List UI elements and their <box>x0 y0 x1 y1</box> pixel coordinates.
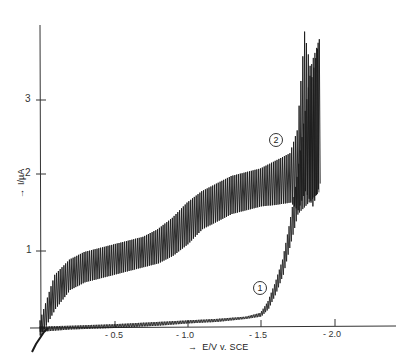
x-tick-label-1.5: - 1.5 <box>249 330 267 340</box>
y-tick-label-1: 1 <box>26 244 32 255</box>
curve-label-2: 2 <box>269 133 283 147</box>
x-tick-label-0.5: - 0.5 <box>105 330 123 340</box>
y-axis-arrow-icon: → <box>16 189 26 198</box>
curve-1 <box>40 43 319 332</box>
y-axis <box>40 25 41 332</box>
curves <box>32 32 320 352</box>
y-axis-title: I/µA <box>16 169 26 185</box>
curve-2 <box>40 32 320 336</box>
curve-label-1: 1 <box>253 281 267 295</box>
x-tick-label-2.0: - 2.0 <box>323 329 341 339</box>
y-tick-label-3: 3 <box>25 93 31 104</box>
y-axis-label: →I/µA <box>16 169 26 198</box>
x-axis-title: E/V v. SCE <box>202 342 248 352</box>
x-tick-label-1.0: - 1.0 <box>176 330 194 340</box>
x-axis-label: →E/V v. SCE <box>188 342 249 352</box>
x-axis-arrow-icon: → <box>188 342 197 352</box>
polarogram-chart <box>0 0 408 362</box>
